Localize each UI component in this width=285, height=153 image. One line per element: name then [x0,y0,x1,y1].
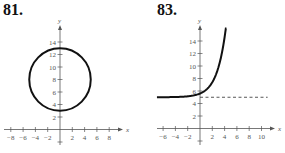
x-axis-label: x [125,126,130,134]
y-tick-label: 14 [49,39,57,47]
x-tick-label: −6 [159,133,167,141]
x-tick-label: 6 [95,134,99,142]
x-axis-arrow-icon [270,127,275,131]
y-axis-arrow-icon [198,25,202,30]
y-tick-label: 14 [189,38,197,46]
x-tick-label: 4 [83,134,87,142]
y-axis-label: y [57,17,62,25]
y-tick-label: 12 [189,50,197,58]
y-tick-label: 2 [53,114,57,122]
x-tick-label: −6 [19,134,27,142]
x-axis-label: x [277,125,282,133]
x-tick-label: 6 [235,133,239,141]
x-tick-label: 2 [71,134,75,142]
graphs: xy−8−6−4−224682468101214xy−6−4−224681024… [0,0,285,153]
x-axis-arrow-icon [118,128,123,132]
y-tick-label: 6 [53,89,57,97]
y-tick-label: 8 [53,76,57,84]
x-tick-label: −4 [32,134,40,142]
y-tick-label: 10 [189,63,197,71]
x-tick-label: −4 [172,133,180,141]
y-tick-label: 8 [193,75,197,83]
x-tick-label: −8 [7,134,15,142]
x-tick-label: −2 [184,133,192,141]
x-tick-label: 2 [211,133,215,141]
x-tick-label: 8 [107,134,111,142]
x-tick-label: 8 [247,133,251,141]
y-tick-label: 4 [53,101,57,109]
y-axis-label: y [197,17,202,25]
y-tick-label: 12 [49,51,57,59]
y-tick-label: 10 [49,64,57,72]
x-tick-label: −2 [44,134,52,142]
y-tick-label: 4 [193,100,197,108]
x-tick-label: 10 [258,133,266,141]
x-tick-label: 4 [223,133,227,141]
y-tick-label: 2 [193,113,197,121]
y-axis-arrow-icon [58,25,62,30]
